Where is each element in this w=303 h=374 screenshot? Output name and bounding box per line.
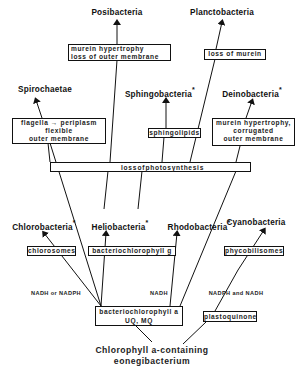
taxon-planctobacteria: Planctobacteria — [190, 9, 254, 17]
box-posibacteria-traits: murein hypertrophy loss of outer membran… — [68, 44, 171, 61]
taxon-spirochaetae: Spirochaetae — [18, 86, 72, 94]
box-deinobacteria-traits: murein hypertrophy, corrugated outer mem… — [212, 118, 295, 146]
box-heliobacteria-traits: bacteriochlorophyll g — [88, 246, 176, 256]
bar-word: loss — [121, 164, 137, 171]
trait-text: flagella → periplasm — [13, 119, 105, 127]
trait-text: murein hypertrophy — [71, 45, 170, 53]
asterisk-marker: * — [146, 219, 149, 226]
trait-text: loss of outer membrane — [71, 53, 170, 61]
box-plastoquinone: plastoquinone — [203, 311, 257, 322]
box-planctobacteria-traits: loss of murein — [204, 49, 266, 60]
taxon-posibacteria: Posibacteria — [91, 9, 142, 17]
taxon-rhodobacteria: Rhodobacteria* — [168, 220, 231, 232]
taxon-name: Deinobacteria — [222, 90, 279, 99]
donor-label-right: NADPH and NADH — [209, 290, 264, 296]
trait-text: bacteriochlorophyll a — [96, 307, 182, 316]
trait-text: outer membrane — [13, 135, 105, 143]
root-line: eonegibacterium — [95, 356, 208, 367]
taxon-sphingobacteria: Sphingobacteria* — [125, 87, 195, 99]
taxon-deinobacteria: Deinobacteria* — [222, 87, 282, 99]
trait-text: UQ, MQ — [96, 316, 182, 325]
taxon-chlorobacteria: Chlorobacteria* — [12, 220, 76, 232]
trait-text: corrugated — [213, 127, 294, 135]
taxon-heliobacteria: Heliobacteria* — [92, 220, 149, 232]
taxon-name: Heliobacteria — [92, 223, 146, 232]
bar-word: photosynthesis — [145, 164, 204, 171]
box-spirochaetae-traits: flagella → periplasm flexible outer memb… — [12, 118, 106, 144]
bar-word: of — [137, 164, 145, 171]
taxon-name: Rhodobacteria — [168, 223, 228, 232]
donor-label-middle: NADH — [150, 290, 168, 296]
asterisk-marker: * — [192, 86, 195, 93]
trait-text: murein hypertrophy, — [213, 119, 294, 127]
taxon-name: Chlorobacteria — [12, 223, 73, 232]
trait-text: outer membrane — [213, 135, 294, 143]
box-bacteriochlorophyll-a: bacteriochlorophyll a UQ, MQ — [95, 306, 183, 326]
taxon-cyanobacteria: Cyanobacteria — [226, 219, 285, 227]
box-cyanobacteria-traits: phycobilisomes — [224, 246, 284, 256]
donor-label-left: NADH or NADPH — [31, 290, 81, 296]
asterisk-marker: * — [73, 219, 76, 226]
root-ancestor: Chlorophyll a-containing eonegibacterium — [95, 345, 208, 367]
root-line: Chlorophyll a-containing — [95, 345, 208, 356]
asterisk-marker: * — [279, 86, 282, 93]
taxon-name: Sphingobacteria — [125, 90, 192, 99]
box-chlorobacteria-traits: chlorosomes — [27, 246, 76, 256]
loss-of-photosynthesis-bar: loss of photosynthesis — [50, 162, 251, 172]
box-sphingobacteria-traits: sphingolipids — [148, 128, 201, 138]
trait-text: flexible — [13, 127, 105, 135]
